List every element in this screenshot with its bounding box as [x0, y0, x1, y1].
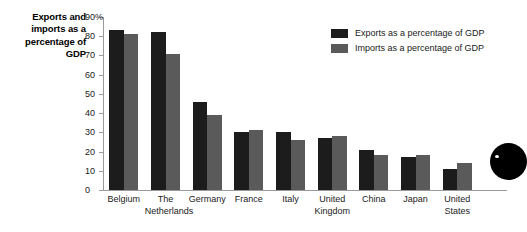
x-axis-category-label: Belgium	[103, 194, 145, 206]
x-axis-category-label: UnitedKingdom	[311, 194, 353, 217]
y-axis-tick-label: 80	[85, 32, 94, 41]
y-axis-tick	[99, 113, 103, 114]
y-axis-tick	[99, 55, 103, 56]
category-label-line: United	[436, 194, 478, 206]
bar-imports	[457, 163, 472, 190]
y-axis-tick	[99, 152, 103, 153]
x-axis-category-label: Germany	[186, 194, 228, 206]
bar-group	[234, 17, 263, 190]
bar-exports	[193, 102, 208, 190]
bar-exports	[276, 132, 291, 190]
bar-imports	[124, 34, 139, 190]
category-label-line: Italy	[270, 194, 312, 206]
bar-exports	[234, 132, 249, 190]
bar-imports	[249, 130, 264, 190]
y-axis-tick-label: 70	[85, 51, 94, 60]
category-label-line: The	[145, 194, 187, 206]
bar-exports	[401, 157, 416, 190]
bar-imports	[207, 115, 222, 190]
chart-title: Exports and imports as a percentage of G…	[4, 11, 86, 61]
y-axis-tick-label: 90%	[85, 13, 94, 22]
bar-exports	[109, 30, 124, 190]
y-axis-tick-label: 20	[85, 147, 94, 156]
y-axis-line	[103, 17, 104, 190]
x-axis-category-label: China	[353, 194, 395, 206]
bar-imports	[332, 136, 347, 190]
black-circle-artifact-notch	[495, 155, 499, 158]
bar-group	[151, 17, 180, 190]
black-circle-artifact	[490, 143, 527, 180]
category-label-line: China	[353, 194, 395, 206]
bar-exports	[359, 150, 374, 190]
y-axis-tick	[99, 132, 103, 133]
legend-swatch-exports-icon	[331, 29, 348, 38]
y-axis-tick-label: 30	[85, 128, 94, 137]
legend-item: Exports as a percentage of GDP	[331, 26, 511, 41]
legend-label: Imports as a percentage of GDP	[355, 44, 484, 53]
bar-imports	[416, 155, 431, 190]
bar-group	[193, 17, 222, 190]
y-axis-tick	[99, 94, 103, 95]
y-axis-tick	[99, 171, 103, 172]
category-label-line: Belgium	[103, 194, 145, 206]
x-axis-category-label: UnitedStates	[436, 194, 478, 217]
chart-legend: Exports as a percentage of GDPImports as…	[331, 26, 511, 56]
category-label-line: United	[311, 194, 353, 206]
y-axis-tick-label: 0	[85, 186, 94, 195]
legend-item: Imports as a percentage of GDP	[331, 41, 511, 56]
category-label-line: States	[436, 206, 478, 218]
x-axis-category-label: Japan	[395, 194, 437, 206]
y-axis-tick-label: 60	[85, 70, 94, 79]
category-label-line: France	[228, 194, 270, 206]
category-label-line: Netherlands	[145, 206, 187, 218]
category-label-line: Kingdom	[311, 206, 353, 218]
legend-swatch-imports-icon	[331, 44, 348, 53]
x-axis-line	[103, 190, 507, 191]
y-axis-tick	[99, 190, 103, 191]
x-axis-category-label: France	[228, 194, 270, 206]
bar-imports	[374, 155, 389, 190]
y-axis-tick-label: 50	[85, 89, 94, 98]
x-axis-category-label: TheNetherlands	[145, 194, 187, 217]
x-axis-category-label: Italy	[270, 194, 312, 206]
category-label-line: Germany	[186, 194, 228, 206]
y-axis-tick-label: 40	[85, 109, 94, 118]
bar-imports	[291, 140, 306, 190]
y-axis-tick	[99, 36, 103, 37]
bar-exports	[151, 32, 166, 190]
bar-exports	[443, 169, 458, 190]
bar-group	[109, 17, 138, 190]
y-axis-tick-label: 10	[85, 166, 94, 175]
bar-exports	[318, 138, 333, 190]
bar-imports	[166, 54, 181, 190]
category-label-line: Japan	[395, 194, 437, 206]
legend-label: Exports as a percentage of GDP	[355, 29, 485, 38]
bar-group	[276, 17, 305, 190]
y-axis-tick	[99, 75, 103, 76]
